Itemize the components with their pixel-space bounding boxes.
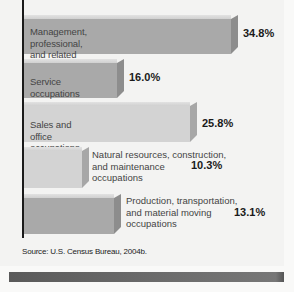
value-label-natural-resources: 10.3% (191, 159, 222, 171)
bar-label-production: Production, transportation, and material… (126, 195, 237, 230)
value-label-management: 34.8% (243, 27, 274, 39)
chart-panel: Management, professional, and related oc… (0, 0, 284, 266)
source-note: Source: U.S. Census Bureau, 2004b. (22, 247, 147, 256)
value-label-sales: 25.8% (202, 117, 233, 129)
value-label-production: 13.1% (234, 206, 265, 218)
bar-label-service: Service occupations (30, 76, 80, 99)
bottom-divider-band (9, 272, 284, 282)
value-label-service: 16.0% (129, 71, 160, 83)
